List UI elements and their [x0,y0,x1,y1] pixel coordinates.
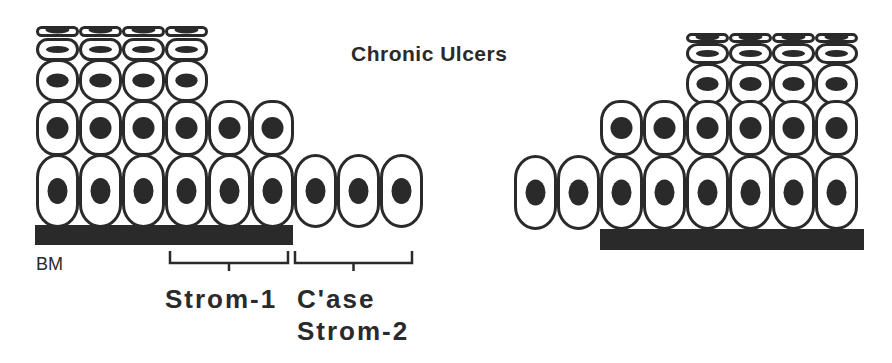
nucleus [655,180,675,206]
nucleus [526,180,546,206]
nucleus [89,74,111,88]
nucleus [695,34,719,41]
nucleus [133,117,155,139]
nucleus [739,50,762,57]
nucleus [90,117,112,139]
nucleus [697,117,719,139]
nucleus [739,77,761,91]
collagenase-label: C'ase [297,284,375,315]
nucleus [783,117,805,139]
stroma-1-label: Strom-1 [165,284,277,315]
nucleus [132,46,155,53]
nucleus [349,178,369,204]
nucleus [45,27,69,34]
nucleus [263,178,283,204]
nucleus [131,27,155,34]
nucleus [220,178,240,204]
nucleus [176,117,198,139]
nucleus [825,77,847,91]
nucleus [654,117,676,139]
nucleus [696,77,718,91]
nucleus [88,27,112,34]
nucleus [826,117,848,139]
nucleus [569,180,589,206]
nucleus [782,77,804,91]
stroma-2-label: Strom-2 [297,316,409,347]
nucleus [741,180,761,206]
nucleus [306,178,326,204]
nucleus [47,117,69,139]
nucleus [825,50,848,57]
basement-membrane-label: BM [36,254,63,275]
basement-membrane [35,225,293,245]
nucleus [611,117,633,139]
nucleus [392,178,412,204]
nucleus [174,27,198,34]
nucleus [824,34,848,41]
nucleus [219,117,241,139]
nucleus [738,34,762,41]
basement-membrane [600,229,864,250]
nucleus [698,180,718,206]
nucleus [132,74,154,88]
nucleus [612,180,632,206]
nucleus [134,178,154,204]
nucleus [782,50,805,57]
nucleus [827,180,847,206]
nucleus [46,46,69,53]
nucleus [262,117,284,139]
nucleus [46,74,68,88]
nucleus [696,50,719,57]
nucleus [740,117,762,139]
stroma-2-bracket [295,251,412,271]
nucleus [175,74,197,88]
diagram-title: Chronic Ulcers [351,42,507,66]
nucleus [48,178,68,204]
nucleus [177,178,197,204]
stroma-1-bracket [170,251,288,271]
nucleus [781,34,805,41]
nucleus [91,178,111,204]
nucleus [175,46,198,53]
nucleus [784,180,804,206]
nucleus [89,46,112,53]
